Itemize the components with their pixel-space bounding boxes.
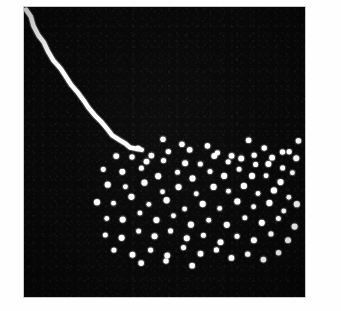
scatter-dot [208, 169, 213, 174]
scatter-dot [226, 189, 231, 194]
track-streak-path [26, 10, 142, 150]
scatter-dot [280, 165, 285, 170]
scatter-dot [266, 200, 272, 206]
scatter-dot [245, 251, 250, 256]
scatter-dot [148, 247, 153, 252]
scatter-dot [161, 158, 166, 163]
scatter-dot [141, 180, 147, 186]
scatter-dot [119, 235, 125, 241]
scatter-dot [242, 215, 247, 220]
scatter-dot [136, 229, 141, 234]
scatter-dot [206, 218, 211, 223]
scatter-dot [226, 159, 231, 164]
scatter-dot [287, 149, 292, 154]
scatter-dot [253, 162, 258, 167]
scatter-dot [160, 136, 166, 142]
scatter-dot [144, 159, 150, 165]
scatter-dot [153, 217, 159, 223]
scatter-dot [166, 149, 171, 154]
scatter-dot [293, 155, 299, 161]
scatter-dot [155, 173, 161, 179]
scatter-dot [234, 234, 239, 239]
scatter-dot [201, 233, 206, 238]
scatter-dot [249, 173, 255, 179]
scatter-dot [129, 252, 135, 258]
track-streak-halo [26, 10, 142, 150]
scatter-dot [137, 211, 142, 216]
scatter-dot [194, 191, 199, 196]
dot-shower-layer [93, 135, 303, 269]
scatter-dot [148, 153, 154, 159]
scatter-dot [256, 191, 261, 196]
scatter-dot [229, 153, 235, 159]
scatter-dot [120, 216, 126, 222]
scatter-dot [259, 220, 265, 226]
scatter-dot [188, 222, 194, 228]
scatter-dot [163, 197, 169, 203]
scatter-dot [182, 160, 188, 166]
scatter-dot [252, 152, 257, 157]
scatter-dot [280, 149, 285, 154]
scatter-dot [189, 263, 195, 269]
scatter-dot [261, 257, 267, 263]
scatter-dot [128, 194, 134, 200]
scatter-dot [286, 195, 291, 200]
scatter-dot [103, 233, 108, 238]
scatter-dot [210, 184, 216, 190]
scatter-dot [241, 183, 247, 189]
scatter-dot [224, 222, 230, 228]
scatter-dot [113, 153, 119, 159]
scatter-dot [187, 147, 193, 153]
scatter-dot [285, 237, 291, 243]
scatter-dot [217, 239, 223, 245]
scatter-dot [296, 138, 302, 144]
plate-scatter-svg [24, 7, 305, 297]
scatter-dot [200, 201, 206, 207]
scatter-dot [146, 202, 151, 207]
scatter-dot [163, 258, 168, 263]
scatter-dot [105, 182, 111, 188]
scatter-dot [123, 184, 128, 189]
scatter-dot [198, 251, 204, 257]
scatter-dot [294, 201, 300, 207]
figure-root [0, 0, 341, 311]
scatter-dot [268, 231, 273, 236]
scatter-dot [290, 170, 295, 175]
track-streak-layer [26, 10, 142, 150]
scatter-dot [135, 145, 141, 151]
scatter-dot [211, 153, 217, 159]
scatter-dot [217, 206, 222, 211]
scatter-dot [251, 204, 256, 209]
scatter-dot [182, 206, 187, 211]
scatter-dot [281, 209, 286, 214]
scatter-dot [265, 161, 271, 167]
scatter-dot [184, 235, 190, 241]
scatter-dot [205, 143, 211, 149]
scatter-dot [179, 141, 185, 147]
scatter-dot [238, 155, 244, 161]
scatter-dot [168, 228, 173, 233]
scatter-dot [229, 255, 235, 261]
scatter-dot [261, 145, 267, 151]
scatter-dot [160, 189, 165, 194]
scatter-dot [129, 154, 134, 159]
scatter-dot [246, 137, 252, 143]
scatter-dot [152, 233, 158, 239]
plate-panel [24, 7, 305, 297]
scatter-dot [138, 260, 144, 266]
scatter-dot [175, 170, 180, 175]
scatter-dot [119, 169, 125, 175]
scatter-dot [181, 245, 186, 250]
scatter-dot [251, 237, 257, 243]
scatter-dot [292, 224, 298, 230]
scatter-dot [271, 187, 277, 193]
scatter-dot [221, 173, 227, 179]
scatter-dot [175, 184, 181, 190]
scatter-dot [264, 173, 269, 178]
scatter-dot [214, 247, 219, 252]
scatter-dot [104, 216, 109, 221]
scatter-dot [111, 247, 116, 252]
scatter-dot [276, 250, 281, 255]
scatter-dot [139, 166, 144, 171]
scatter-dot [269, 155, 275, 161]
